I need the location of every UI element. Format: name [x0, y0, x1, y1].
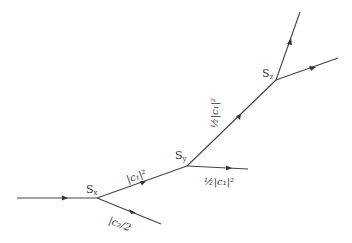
input-beam: [17, 196, 97, 201]
arrow-icon: [62, 196, 68, 201]
beam-sy-to-sz: [187, 80, 276, 166]
beam-sz-right: [276, 58, 338, 80]
arrow-icon: [236, 114, 241, 120]
arrow-icon: [226, 166, 232, 171]
label-sy-right: ½|c₁|²: [204, 176, 234, 188]
beam-sz-up: [276, 12, 300, 80]
node-sx-label: Sx: [86, 183, 98, 197]
arrow-icon: [287, 38, 292, 45]
label-sx-upper: |c₁|²: [125, 168, 148, 186]
arrow-icon: [140, 181, 146, 186]
beam-sx-lower: [97, 198, 161, 224]
node-sy-label: Sy: [175, 149, 187, 163]
diagram-canvas: Sx Sy Sz |c₁|² |c₂/2 ½|c₁|² ½|c₁|²: [0, 0, 352, 243]
label-sy-up: ½|c₁|²: [209, 98, 221, 128]
node-sz-label: Sz: [262, 67, 274, 81]
beam-sy-right: [187, 166, 248, 171]
label-sx-lower: |c₂/2: [107, 215, 133, 235]
